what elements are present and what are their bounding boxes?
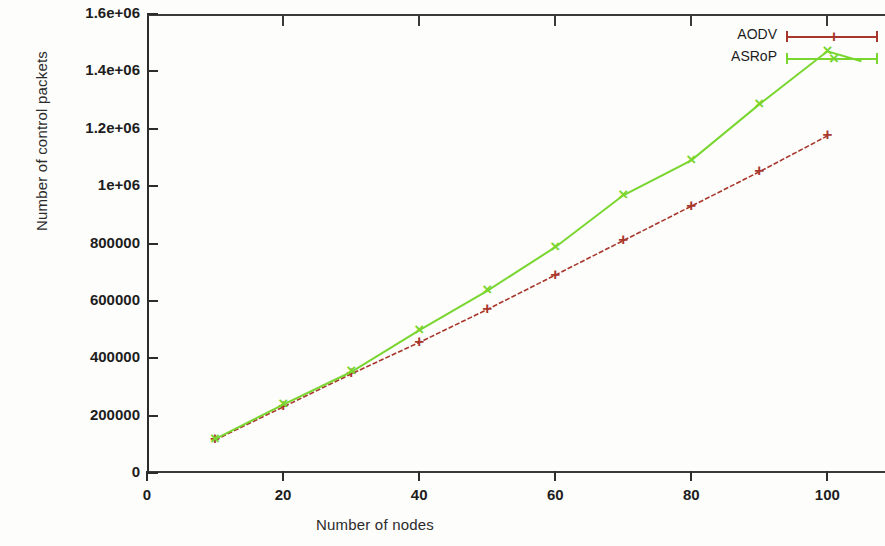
- y-tick-label-text: 1.6e+06: [8, 4, 140, 21]
- data-point-asrop-30: ×: [346, 361, 356, 380]
- chart-canvas: Number of control packets Number of node…: [0, 0, 885, 546]
- legend-label: ASRoP: [731, 48, 777, 64]
- legend-label: AODV: [737, 26, 777, 42]
- data-point-asrop-90: ×: [754, 94, 764, 113]
- y-tick-label-text: 0: [8, 463, 140, 480]
- y-tick-label-text: 400000: [8, 348, 140, 365]
- data-point-asrop-70: ×: [618, 185, 628, 204]
- y-tick-label-text: 800000: [8, 234, 140, 251]
- legend-entry-asrop[interactable]: ASRoP×: [690, 48, 885, 70]
- chart-legend: AODV+ASRoP×: [690, 26, 885, 78]
- legend-marker: ×: [827, 51, 841, 67]
- y-tick-label: 1e+06: [0, 176, 140, 196]
- data-point-aodv-100: +: [822, 125, 832, 144]
- x-tick-label: 100: [797, 486, 857, 503]
- y-tick-label-text: 1.4e+06: [8, 61, 140, 78]
- y-tick-label-text: 1e+06: [8, 176, 140, 193]
- x-tick-label: 40: [389, 486, 449, 503]
- y-tick-label: 1.6e+06: [0, 4, 140, 24]
- y-tick-label: 200000: [0, 406, 140, 426]
- y-tick-label: 1.2e+06: [0, 119, 140, 139]
- legend-entry-aodv[interactable]: AODV+: [690, 26, 885, 48]
- series-line-aodv: [215, 136, 827, 440]
- data-point-asrop-20: ×: [278, 394, 288, 413]
- legend-cap-right: [876, 53, 878, 64]
- y-tick-label: 400000: [0, 348, 140, 368]
- data-point-asrop-60: ×: [550, 237, 560, 256]
- data-point-asrop-10: ×: [210, 429, 220, 448]
- data-point-aodv-90: +: [754, 161, 764, 180]
- x-tick-label: 20: [253, 486, 313, 503]
- y-tick-label: 800000: [0, 234, 140, 254]
- data-point-aodv-70: +: [618, 230, 628, 249]
- y-tick-label-text: 200000: [8, 406, 140, 423]
- data-point-aodv-60: +: [550, 265, 560, 284]
- legend-cap-left: [786, 53, 788, 64]
- data-point-aodv-80: +: [686, 196, 696, 215]
- legend-cap-left: [786, 31, 788, 42]
- series-line-asrop: [215, 51, 861, 439]
- x-axis-label: Number of nodes: [0, 516, 750, 533]
- y-tick-label-text: 1.2e+06: [8, 119, 140, 136]
- x-tick-label: 60: [525, 486, 585, 503]
- plot-series-layer: ++++++++++××××××××××: [147, 14, 875, 473]
- data-point-asrop-80: ×: [686, 150, 696, 169]
- y-tick-label-text: 600000: [8, 291, 140, 308]
- data-point-asrop-50: ×: [482, 280, 492, 299]
- data-point-aodv-50: +: [482, 299, 492, 318]
- legend-marker: +: [827, 29, 841, 45]
- data-point-asrop-40: ×: [414, 320, 424, 339]
- y-tick-label: 1.4e+06: [0, 61, 140, 81]
- y-tick-label: 600000: [0, 291, 140, 311]
- legend-cap-right: [876, 31, 878, 42]
- x-tick-label: 0: [117, 486, 177, 503]
- y-tick-label: 0: [0, 463, 140, 483]
- x-tick-label: 80: [661, 486, 721, 503]
